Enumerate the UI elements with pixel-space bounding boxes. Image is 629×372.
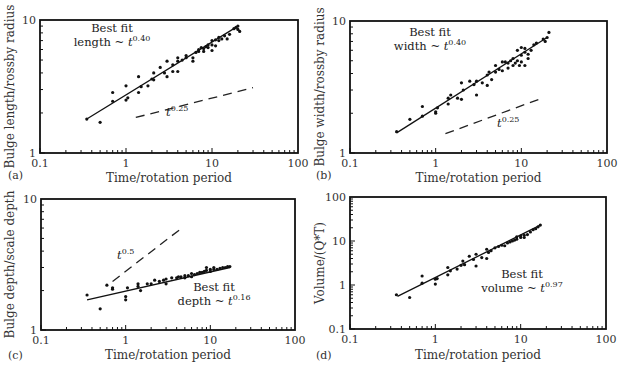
data-point [511,57,514,60]
data-point [126,286,129,289]
data-point [504,60,507,63]
data-point [468,255,471,258]
data-point [421,274,424,277]
data-point [408,118,411,121]
data-point [197,48,200,51]
data-point [215,268,218,271]
data-point [460,81,463,84]
data-point [527,57,530,60]
data-point [152,78,155,81]
y-axis-title: Bulge width/rossby radius [313,7,327,166]
y-tick-label: 1 [339,147,346,160]
data-point [223,34,226,37]
x-tick-label: 10 [205,157,219,170]
data-point [158,280,161,283]
data-point [523,64,526,67]
chart-panel-c: 0.1110100110Time/rotation periodBulge de… [3,190,306,362]
data-point [497,68,500,71]
data-point [446,266,449,269]
data-point [139,289,142,292]
x-tick-label: 10 [514,333,528,346]
data-point [218,267,221,270]
y-axis-title: Bulge depth/scale depth [3,190,17,338]
data-point [520,60,523,63]
data-point [140,85,143,88]
data-point [217,36,220,39]
reference-power-line [445,99,538,133]
data-point [408,296,411,299]
data-point [487,71,490,74]
reference-line-label: t0.25 [166,104,188,119]
data-point [205,269,208,272]
data-point [421,105,424,108]
data-point [99,121,102,124]
x-tick-label: 100 [596,333,617,346]
data-point [124,84,127,87]
data-point [183,274,186,277]
x-axis-title: Time/rotation period [106,171,232,185]
best-fit-formula: width ~ t0.40 [394,38,466,53]
best-fit-formula: depth ~ t0.16 [178,293,251,308]
y-tick-label: 1 [30,324,37,337]
reference-line-label: t0.25 [497,115,519,130]
data-point [515,235,518,238]
y-tick-label: 10 [332,15,346,28]
data-point [179,275,182,278]
data-point [165,60,168,63]
data-point [463,263,466,266]
data-point [421,282,424,285]
data-point [449,269,452,272]
data-point [485,248,488,251]
data-point [164,277,167,280]
data-point [176,56,179,59]
plot-frame [350,197,606,329]
data-point [236,24,239,27]
data-point [485,257,488,260]
data-point [191,56,194,59]
chart-panel-a: 0.1110100110Time/rotation periodBulge le… [3,5,309,185]
plot-frame [41,199,295,330]
data-point [150,282,153,285]
y-tick-label: 10 [22,14,36,27]
data-point [480,256,483,259]
figure-canvas: 0.1110100110Time/rotation periodBulge le… [0,0,629,372]
data-point [85,293,88,296]
data-point [152,71,155,74]
data-point [456,267,459,270]
data-point [494,71,497,74]
panel-letter: (b) [316,169,332,182]
data-point [190,275,193,278]
data-point [185,54,188,57]
y-tick-label: 100 [325,191,346,204]
data-point [206,46,209,49]
data-point [436,106,439,109]
x-tick-label: 10 [514,157,528,170]
best-fit-label: Best fit [409,25,451,39]
data-point [212,266,215,269]
data-point [539,223,542,226]
x-tick-label: 10 [203,334,217,347]
data-point [449,93,452,96]
x-tick-label: 1 [432,333,439,346]
data-point [85,117,88,120]
data-point [146,282,149,285]
data-point [462,88,465,91]
data-point [529,230,532,233]
x-tick-label: 100 [288,157,309,170]
data-point [526,233,529,236]
data-point [501,69,504,72]
data-point [210,39,213,42]
x-axis-title: Time/rotation period [416,171,542,185]
data-point [226,37,229,40]
data-point [209,270,212,273]
data-point [520,46,523,49]
data-point [111,288,114,291]
data-point [472,83,475,86]
data-point [434,110,437,113]
data-point [176,70,179,73]
data-point [206,43,209,46]
data-point [124,298,127,301]
data-point [456,97,459,100]
data-point [171,63,174,66]
x-tick-label: 100 [597,157,618,170]
